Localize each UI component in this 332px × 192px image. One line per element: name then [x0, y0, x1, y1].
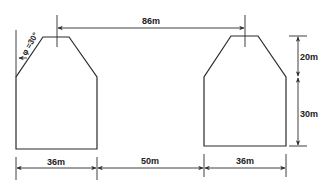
angle-label: φ =30° — [20, 31, 40, 57]
angle-indicator: φ =30° — [16, 30, 40, 77]
lower-height-label: 30m — [300, 109, 318, 119]
diagram-canvas: 86m φ =30° 20m 30m 36m 50m 36m — [0, 0, 332, 192]
upper-height-label: 20m — [300, 52, 318, 62]
left-width-label: 36m — [47, 157, 65, 167]
right-building — [204, 36, 286, 146]
width-dimensions: 36m 50m 36m — [16, 154, 286, 180]
right-width-label: 36m — [236, 156, 254, 166]
height-dimensions: 20m 30m — [289, 36, 318, 146]
center-spacing-dimension: 86m — [58, 16, 244, 28]
gap-label: 50m — [141, 156, 159, 166]
center-spacing-label: 86m — [142, 16, 160, 26]
